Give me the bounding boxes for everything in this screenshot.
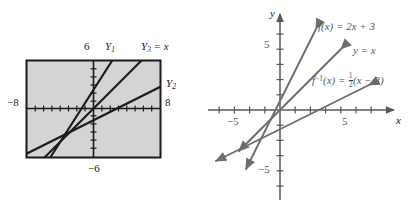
- label-function-f-inverse: f−1(x) = 12(x − 3): [312, 72, 384, 88]
- label-finv-denominator: 2: [349, 80, 353, 89]
- y-tick-label-neg5: −5: [258, 164, 270, 175]
- calc-ymin-label: −6: [88, 163, 100, 174]
- x-tick-label-neg5: −5: [227, 116, 239, 127]
- plane-plotted-lines: [216, 29, 369, 169]
- label-finv-tail: (x − 3): [353, 74, 384, 86]
- coordinate-plane-svg: [208, 0, 416, 212]
- label-finv-exponent: −1: [315, 74, 323, 83]
- calc-label-y1-subscript: 1: [111, 45, 115, 54]
- calc-ymax-label: 6: [84, 41, 90, 52]
- label-function-f: f(x) = 2x + 3: [318, 21, 375, 32]
- y-tick-label-5: 5: [264, 39, 270, 50]
- coordinate-plane-panel: x y −5 5 5 −5 f(x) = 2x + 3 y = x f−1(x)…: [208, 0, 416, 212]
- label-function-identity: y = x: [353, 45, 376, 56]
- plane-axes: [208, 14, 394, 200]
- label-finv-mid: (x) =: [323, 74, 348, 86]
- y-axis-label: y: [270, 8, 275, 19]
- calc-label-y2: Y2: [166, 78, 176, 91]
- line-f: [246, 29, 316, 169]
- calc-label-y3-equation: = x: [151, 40, 169, 52]
- label-f-body: (x) = 2x + 3: [321, 20, 375, 32]
- math-figure: 6 −6 −8 8 Y1 Y3 = x Y2: [0, 0, 416, 212]
- label-finv-fraction: 12: [349, 72, 353, 88]
- graphing-calculator-panel: 6 −6 −8 8 Y1 Y3 = x Y2: [0, 0, 208, 212]
- x-axis-label: x: [396, 115, 401, 126]
- calc-label-y3: Y3 = x: [141, 41, 169, 54]
- calc-label-y1: Y1: [105, 41, 115, 54]
- line-identity: [239, 49, 341, 151]
- calc-label-y2-subscript: 2: [172, 82, 176, 91]
- x-tick-label-5: 5: [342, 116, 348, 127]
- label-finv-numerator: 1: [349, 72, 353, 80]
- calculator-screen-svg: [0, 0, 208, 212]
- calc-xmax-label: 8: [165, 97, 171, 108]
- calc-xmin-label: −8: [7, 97, 19, 108]
